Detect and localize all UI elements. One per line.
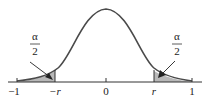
right-alpha: α [174, 30, 180, 42]
tick-label-0: 0 [103, 85, 109, 97]
right-two: 2 [174, 45, 180, 57]
tick-label-1: 1 [189, 85, 195, 97]
left-two: 2 [32, 45, 38, 57]
tick-label-r: r [152, 85, 157, 97]
tick-label-minus-r: −r [49, 85, 61, 97]
left-tail-label: α 2 [30, 30, 40, 57]
left-alpha: α [32, 30, 38, 42]
right-tail-label: α 2 [172, 30, 182, 57]
tick-label-minus-1: −1 [8, 85, 20, 97]
distribution-diagram: −1 −r 0 r 1 α 2 α 2 [0, 0, 221, 104]
